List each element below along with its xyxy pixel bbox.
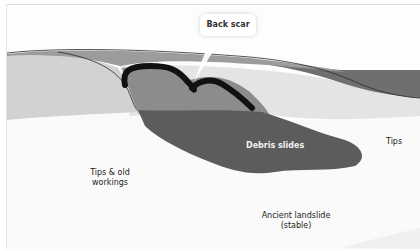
back-scar-callout: Back scar <box>200 14 256 36</box>
debris-slides-label: Debris slides <box>246 141 304 151</box>
landslide-cross-section <box>0 0 420 251</box>
tips-label: Tips <box>386 137 402 147</box>
back-scar-label: Back scar <box>206 20 249 29</box>
diagram-canvas: Back scar Debris slides Tips Tips & old … <box>0 0 420 251</box>
ancient-landslide-label: Ancient landslide (stable) <box>254 211 338 231</box>
ancient-landslide-line1: Ancient landslide <box>254 211 338 221</box>
tips-old-workings-label: Tips & old workings <box>80 168 140 188</box>
tips-old-workings-line2: workings <box>80 178 140 188</box>
tips-old-workings-line1: Tips & old <box>80 168 140 178</box>
ancient-landslide-line2: (stable) <box>254 221 338 231</box>
